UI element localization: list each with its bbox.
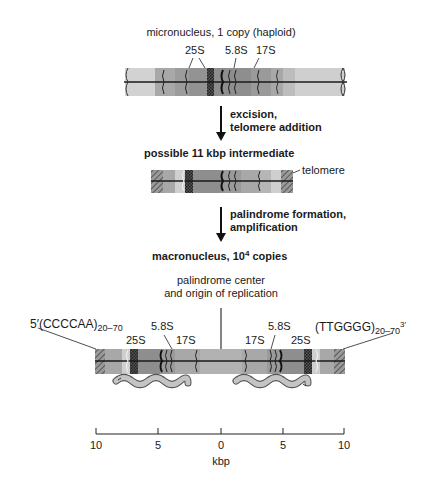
- diagram-canvas: [0, 0, 429, 491]
- right-gene-label-17s: 17S: [245, 334, 265, 347]
- gene-label-5-8s: 5.8S: [225, 44, 248, 57]
- palindrome-center-line1: palindrome center: [140, 274, 302, 287]
- scale-unit-label: kbp: [201, 455, 241, 468]
- step2-line2: amplification: [230, 221, 298, 234]
- leader-right-5-8s: [271, 335, 275, 349]
- leader-17s: [254, 58, 259, 68]
- leader-5-8s: [234, 58, 236, 68]
- tick-label-0: 0: [211, 439, 231, 452]
- intermediate-dna-bar: [151, 170, 300, 193]
- right-gene-label-25s: 25S: [291, 334, 311, 347]
- macronucleus-label-suffix: copies: [249, 250, 287, 262]
- macronucleus-label-prefix: macronucleus, 10: [152, 250, 245, 262]
- left-end-prime: 5′: [30, 317, 39, 331]
- telomere-label: telomere: [302, 164, 345, 177]
- arrow-excision: [216, 106, 226, 141]
- tick-label-10-right: 10: [334, 439, 354, 452]
- right-end-repeat-unit: (TTGGGG): [315, 320, 375, 334]
- right-gene-label-5-8s: 5.8S: [268, 320, 291, 333]
- leader-left-5-8s: [164, 335, 172, 349]
- leader-25s-a: [189, 58, 193, 68]
- tick-label-5-left: 5: [148, 439, 168, 452]
- right-end-repeat-count: 20–70: [375, 326, 400, 336]
- palindrome-center-line2: and origin of replication: [140, 287, 302, 300]
- gene-label-25s: 25S: [185, 44, 205, 57]
- step1-line2: telomere addition: [230, 121, 322, 134]
- tick-label-5-right: 5: [273, 439, 293, 452]
- micronucleus-dna-bar: [124, 58, 347, 96]
- left-gene-label-25s: 25S: [126, 334, 146, 347]
- step1-line1: excision,: [230, 108, 277, 121]
- left-end-repeat-unit: (CCCCAA): [39, 317, 98, 331]
- leader-25s-b: [199, 58, 205, 68]
- rna-transcript-left: [116, 378, 188, 385]
- scale-axis: [96, 428, 344, 434]
- macronucleus-label: macronucleus, 104 copies: [152, 247, 287, 263]
- right-end-prime: 3′: [400, 320, 406, 329]
- micronucleus-label: micronucleus, 1 copy (haploid): [115, 26, 327, 39]
- tick-label-10-left: 10: [86, 439, 106, 452]
- right-end-sequence: (TTGGGG)20–703′: [315, 318, 406, 338]
- left-gene-label-5-8s: 5.8S: [151, 320, 174, 333]
- left-end-sequence: 5′(CCCCAA)20–70: [30, 318, 123, 335]
- step2-line1: palindrome formation,: [230, 208, 346, 221]
- leader-telomere: [293, 170, 300, 173]
- left-gene-label-17s: 17S: [176, 334, 196, 347]
- left-end-repeat-count: 20–70: [98, 323, 123, 333]
- rna-transcript-right: [236, 378, 308, 387]
- intermediate-label: possible 11 kbp intermediate: [144, 147, 294, 160]
- arrow-palindrome: [216, 207, 226, 242]
- gene-label-17s: 17S: [256, 44, 276, 57]
